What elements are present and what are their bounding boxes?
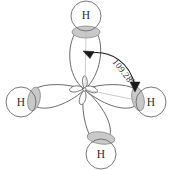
atom-label-bottom: H xyxy=(97,148,105,160)
bond-angle-label: 109.280 xyxy=(110,57,136,87)
orbital-diagram-figure: 109.280 H H H H xyxy=(0,0,173,171)
atom-label-right: H xyxy=(147,96,155,108)
sp3-orbital-diagram: 109.280 H H H H xyxy=(0,0,173,171)
angle-label-group: 109.280 xyxy=(110,57,136,87)
atom-label-left: H xyxy=(17,96,25,108)
nucleus-point xyxy=(83,88,86,91)
atom-label-top: H xyxy=(82,9,90,21)
